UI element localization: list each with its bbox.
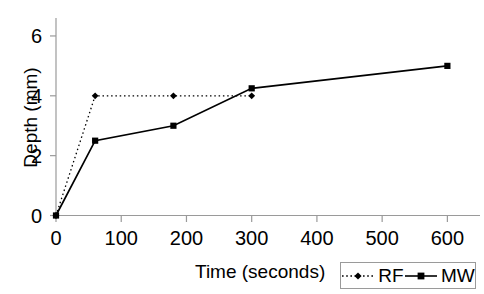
x-axis-ticks — [56, 216, 447, 223]
chart-plot-svg — [0, 0, 484, 294]
legend-label-rf: RF — [378, 266, 403, 285]
chart-figure: 0246 0100200300400500600 Depth (mm) Time… — [0, 0, 484, 294]
data-point-rf-2 — [170, 92, 177, 99]
legend-entry-mw: MW — [404, 266, 475, 285]
data-point-mw-2 — [170, 123, 176, 129]
x-axis-tick-label: 500 — [352, 228, 412, 248]
x-axis-tick-label: 400 — [287, 228, 347, 248]
x-axis-tick-label: 200 — [156, 228, 216, 248]
x-axis-tick-label: 300 — [222, 228, 282, 248]
data-point-mw-0 — [53, 212, 59, 218]
y-axis-tick-label: 0 — [8, 206, 42, 226]
mw-legend-swatch — [404, 270, 438, 282]
legend-label-mw: MW — [441, 266, 475, 285]
data-point-mw-1 — [92, 138, 98, 144]
series-rf — [53, 92, 255, 218]
data-point-rf-1 — [92, 92, 99, 99]
diamond-marker-icon — [355, 272, 362, 279]
data-point-mw-3 — [249, 85, 255, 91]
x-axis-title: Time (seconds) — [195, 262, 325, 281]
square-marker-icon — [418, 272, 425, 279]
x-axis-tick-label: 600 — [417, 228, 477, 248]
chart-legend: RF MW — [340, 262, 476, 289]
rf-legend-swatch — [341, 270, 375, 282]
series-line-rf — [56, 96, 252, 216]
x-axis-tick-label: 0 — [26, 228, 86, 248]
series-mw — [53, 63, 451, 219]
data-point-mw-4 — [444, 63, 450, 69]
y-axis-ticks — [50, 36, 56, 216]
axes-group — [50, 18, 480, 222]
y-axis-title: Depth (mm) — [21, 58, 40, 178]
data-point-rf-3 — [248, 92, 255, 99]
y-axis-tick-label: 6 — [8, 26, 42, 46]
data-series-group — [53, 63, 451, 219]
legend-entry-rf: RF — [341, 266, 403, 285]
x-axis-tick-label: 100 — [91, 228, 151, 248]
